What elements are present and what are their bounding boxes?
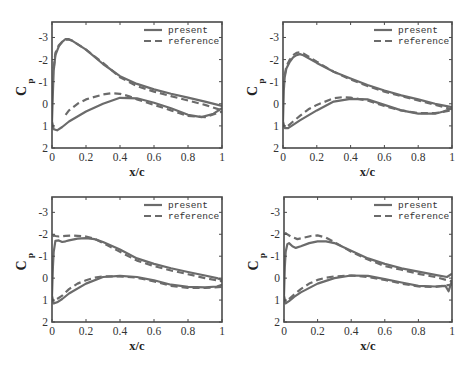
y-tick-label: -1 (269, 76, 279, 88)
present-lower-line (284, 276, 452, 304)
svg-text:C: C (245, 86, 260, 96)
x-tick-label: 0.6 (147, 325, 162, 337)
y-tick-label: -2 (38, 228, 48, 240)
x-tick-label: 0.2 (79, 151, 94, 163)
y-tick-label: 2 (274, 316, 280, 328)
y-tick-label: -2 (38, 54, 48, 66)
legend: presentreference (374, 25, 450, 47)
x-tick-label: 0 (280, 151, 286, 163)
legend-present-label: present (398, 25, 438, 36)
series-group (52, 235, 222, 303)
legend: presentreference (374, 200, 450, 222)
x-tick-label: 0.4 (113, 151, 128, 163)
x-tick-label: 0.4 (113, 325, 128, 337)
y-tick-label: 2 (273, 142, 279, 154)
svg-text:C: C (14, 86, 29, 96)
x-axis-label: x/c (360, 339, 376, 353)
y-tick-label: 0 (274, 272, 280, 284)
y-tick-label: -3 (38, 206, 48, 218)
y-axis-label: Cp (245, 78, 266, 96)
x-axis-label: x/c (129, 339, 145, 353)
y-tick-label: 2 (42, 316, 48, 328)
y-axis-label: Cp (14, 253, 35, 271)
y-tick-label: -3 (269, 31, 279, 43)
legend-present-label: present (398, 200, 438, 211)
y-tick-label: -1 (38, 250, 48, 262)
svg-text:p: p (25, 78, 35, 83)
reference-lower-line (66, 93, 222, 117)
x-tick-label: 0.6 (377, 151, 392, 163)
y-tick-label: -2 (269, 54, 279, 66)
x-tick-label: 0.2 (79, 325, 94, 337)
reference-lower-line (57, 276, 222, 299)
x-tick-label: 0.8 (181, 325, 196, 337)
legend-present-label: present (168, 200, 208, 211)
x-tick-label: 0 (281, 325, 287, 337)
plot-panel-top-left: 00.20.40.60.81-3-2-1012x/cCppresentrefer… (14, 22, 225, 179)
y-axis-label: Cp (246, 253, 267, 271)
x-axis-label: x/c (360, 165, 376, 179)
x-tick-label: 0.6 (147, 151, 162, 163)
present-upper-line (52, 39, 222, 122)
x-tick-label: 0.4 (343, 151, 358, 163)
present-lower-line (52, 276, 222, 304)
x-tick-label: 0.2 (310, 325, 325, 337)
y-tick-label: -1 (270, 250, 280, 262)
y-tick-label: 1 (42, 294, 48, 306)
legend-reference-label: reference (398, 36, 450, 47)
y-tick-label: 0 (42, 272, 48, 284)
x-tick-label: 0.2 (310, 151, 325, 163)
x-tick-label: 0 (49, 325, 55, 337)
x-tick-label: 0 (49, 151, 55, 163)
figure-canvas: 00.20.40.60.81-3-2-1012x/cCppresentrefer… (0, 0, 475, 367)
x-tick-label: 1 (219, 325, 225, 337)
x-tick-label: 1 (219, 151, 225, 163)
x-tick-label: 0.6 (378, 325, 393, 337)
plot-panel-top-right: 00.20.40.60.81-3-2-1012x/cCppresentrefer… (245, 22, 455, 179)
svg-text:p: p (25, 253, 35, 258)
legend-reference-label: reference (398, 211, 450, 222)
present-upper-line (283, 54, 452, 121)
y-tick-label: -3 (38, 31, 48, 43)
x-tick-label: 0.8 (181, 151, 196, 163)
svg-text:C: C (14, 260, 29, 270)
x-tick-label: 1 (449, 151, 455, 163)
y-tick-label: 0 (42, 98, 48, 110)
legend-reference-label: reference (168, 36, 220, 47)
series-group (52, 39, 222, 130)
legend-present-label: present (168, 25, 208, 36)
legend: presentreference (144, 25, 220, 47)
plot-panel-bottom-left: 00.20.40.60.81-3-2-1012x/cCppresentrefer… (14, 197, 225, 353)
legend: presentreference (144, 200, 220, 222)
svg-text:C: C (246, 260, 261, 270)
x-axis-label: x/c (129, 165, 145, 179)
legend-reference-label: reference (168, 211, 220, 222)
y-tick-label: -2 (270, 228, 280, 240)
series-group (283, 52, 452, 128)
svg-text:p: p (257, 253, 267, 258)
y-tick-label: 0 (273, 98, 279, 110)
y-tick-label: 1 (42, 120, 48, 132)
reference-lower-line (289, 276, 452, 300)
y-axis-label: Cp (14, 78, 35, 96)
y-tick-label: 2 (42, 142, 48, 154)
plot-panel-bottom-right: 00.20.40.60.81-3-2-1012x/cCppresentrefer… (246, 197, 455, 353)
y-tick-label: 1 (274, 294, 280, 306)
svg-text:p: p (256, 78, 266, 83)
x-tick-label: 1 (449, 325, 455, 337)
y-tick-label: -3 (270, 206, 280, 218)
x-tick-label: 0.4 (344, 325, 359, 337)
series-group (284, 233, 452, 303)
x-tick-label: 0.8 (411, 151, 426, 163)
y-tick-label: -1 (38, 76, 48, 88)
y-tick-label: 1 (273, 120, 279, 132)
x-tick-label: 0.8 (411, 325, 426, 337)
